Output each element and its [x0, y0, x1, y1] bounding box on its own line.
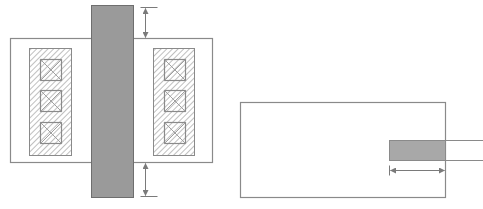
gate-poly [92, 6, 134, 198]
contact [165, 91, 186, 112]
diagram-canvas [0, 0, 483, 209]
contact [41, 91, 62, 112]
contact [41, 60, 62, 81]
poly-extension-bar [390, 141, 446, 161]
transistor-layout [11, 6, 213, 198]
contact [165, 123, 186, 144]
poly-extension-view [241, 103, 483, 198]
contact [41, 123, 62, 144]
contact [165, 60, 186, 81]
